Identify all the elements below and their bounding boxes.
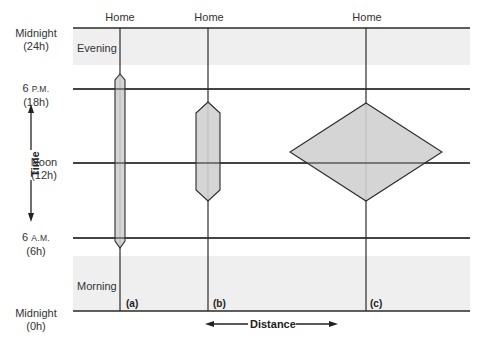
home-label-c: Home <box>337 11 397 23</box>
tick-label-6pm: 6 P.M. (18h) <box>4 82 68 109</box>
y-axis-title: Time <box>29 151 41 176</box>
evening-band <box>73 28 470 65</box>
path-label-b: (b) <box>213 298 226 309</box>
tick-label-midnight-0: Midnight (0h) <box>4 307 68 333</box>
home-label-b: Home <box>179 11 239 23</box>
prism-a <box>115 74 125 248</box>
x-axis-title: Distance <box>250 318 296 330</box>
tick-label-noon: Noon (12h) <box>14 156 74 182</box>
tick-label-midnight-24: Midnight (24h) <box>4 27 68 53</box>
path-label-c: (c) <box>370 298 382 309</box>
prism-c <box>290 103 442 201</box>
prism-b <box>196 102 220 201</box>
home-label-a: Home <box>90 11 150 23</box>
tick-label-6am: 6 A.M. (6h) <box>4 231 68 258</box>
band-label-morning: Morning <box>77 280 117 292</box>
band-label-evening: Evening <box>77 42 117 54</box>
path-label-a: (a) <box>126 298 138 309</box>
